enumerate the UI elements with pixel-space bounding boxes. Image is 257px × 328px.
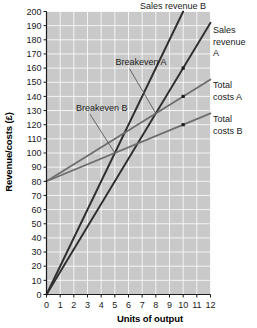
y-tick-label: 60 [31,205,41,215]
y-tick-label: 170 [26,49,41,59]
y-tick-label: 130 [26,106,41,116]
callout-label-sales-revenue-a: A [213,48,219,58]
x-tick-label: 11 [192,300,201,310]
x-tick-label: 0 [44,300,49,310]
y-tick-label: 120 [26,120,41,130]
data-point-marker [182,95,185,98]
x-tick-label: 12 [205,300,215,310]
breakeven-chart: 0102030405060708090100110120130140150160… [0,0,257,328]
callout-label-sales-revenue-a: Sales [213,25,236,35]
callout-label-total-costs-a: Total [213,80,232,90]
y-tick-label: 160 [26,63,41,73]
x-tick-label: 8 [153,300,158,310]
callout-label-sales-revenue-b: Sales revenue B [140,1,206,11]
x-tick-label: 2 [71,300,76,310]
x-tick-label: 6 [126,300,131,310]
x-tick-label: 5 [112,300,117,310]
y-tick-label: 200 [26,7,41,17]
y-tick-label: 190 [26,21,41,31]
y-tick-label: 80 [31,177,41,187]
y-axis-title: Revenue/costs (£) [3,112,14,192]
data-point-marker [182,123,185,126]
y-tick-label: 90 [31,162,41,172]
y-tick-label: 0 [36,290,41,300]
y-axis-tick-labels: 0102030405060708090100110120130140150160… [26,7,41,300]
x-tick-label: 1 [58,300,63,310]
callout-label-total-costs-b: costs B [213,126,243,136]
y-tick-label: 100 [26,148,41,158]
y-tick-label: 10 [31,276,41,286]
callout-label-sales-revenue-a: revenue [213,37,246,47]
y-tick-label: 30 [31,247,41,257]
y-tick-label: 40 [31,233,41,243]
annotation-label-breakeven-a: Breakeven A [116,57,167,67]
x-axis-tick-labels: 0123456789101112 [44,300,216,310]
y-tick-label: 150 [26,77,41,87]
x-axis-title: Units of output [117,313,184,324]
x-tick-label: 7 [140,300,145,310]
y-tick-label: 70 [31,191,41,201]
x-tick-label: 10 [178,300,188,310]
y-tick-label: 110 [27,134,41,144]
y-tick-label: 20 [31,261,41,271]
x-tick-label: 3 [85,300,90,310]
callout-label-total-costs-a: costs A [213,92,242,102]
y-tick-label: 50 [31,219,41,229]
chart-canvas: 0102030405060708090100110120130140150160… [0,0,257,328]
x-tick-label: 4 [99,300,104,310]
y-tick-label: 180 [26,35,41,45]
callout-label-total-costs-b: Total [213,114,232,124]
annotation-label-breakeven-b: Breakeven B [76,103,128,113]
x-tick-label: 9 [167,300,172,310]
y-tick-label: 140 [26,92,41,102]
data-point-marker [182,67,185,70]
